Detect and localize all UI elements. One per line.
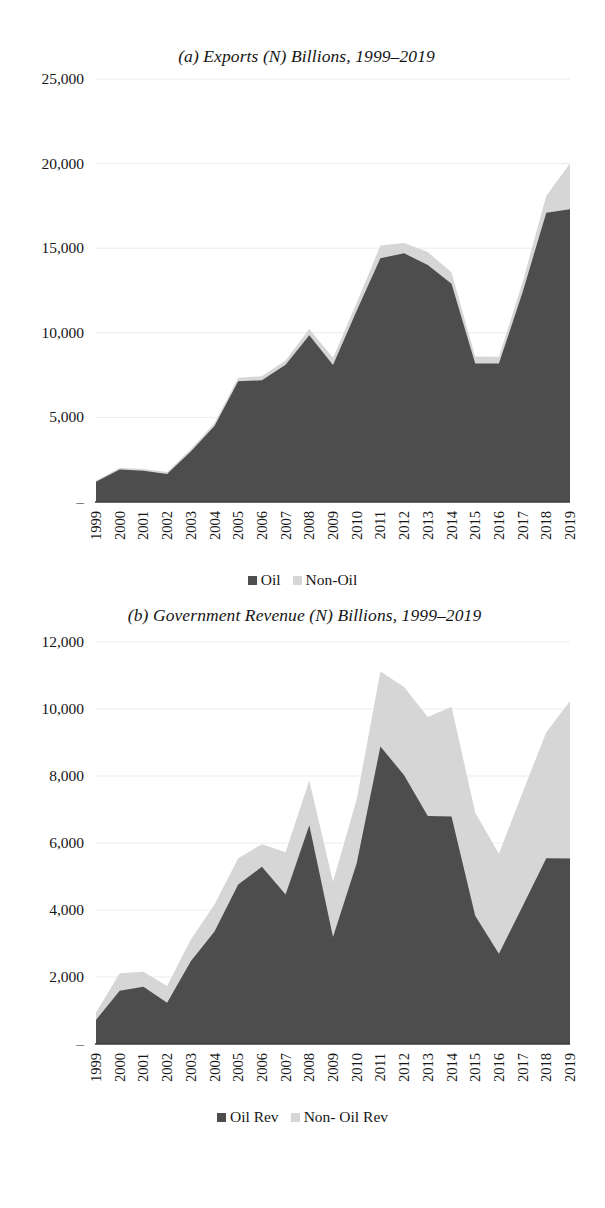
legend-label: Oil Rev: [230, 1108, 279, 1126]
x-axis-tick-label: 2000: [112, 511, 128, 540]
chart-b-title: (b) Government Revenue (N) Billions, 199…: [0, 589, 605, 626]
x-axis-tick-label: 2014: [444, 510, 460, 540]
legend-item[interactable]: Oil: [248, 571, 281, 589]
x-axis-tick-label: 1999: [88, 511, 104, 540]
legend-label: Non- Oil Rev: [304, 1108, 388, 1126]
y-axis-tick-label: –: [75, 493, 84, 510]
x-axis-tick-label: 2017: [515, 1053, 531, 1082]
chart-b-legend: Oil RevNon- Oil Rev: [0, 1108, 605, 1126]
x-axis-tick-label: 2017: [515, 511, 531, 540]
chart-a-title: (a) Exports (N) Billions, 1999–2019: [0, 0, 605, 67]
legend-swatch-icon: [248, 576, 257, 585]
x-axis-tick-label: 2006: [254, 1053, 270, 1082]
y-axis-tick-label: 10,000: [41, 700, 84, 717]
x-axis-tick-label: 2011: [372, 1053, 388, 1081]
x-axis-tick-label: 2000: [112, 1053, 128, 1082]
y-axis-tick-label: 2,000: [49, 968, 84, 985]
legend-swatch-icon: [293, 576, 302, 585]
y-axis-tick-label: 12,000: [41, 633, 84, 650]
x-axis-tick-label: 2010: [349, 511, 365, 540]
x-axis-tick-label: 2003: [183, 511, 199, 540]
x-axis-tick-label: 2013: [420, 1053, 436, 1082]
legend-item[interactable]: Non-Oil: [293, 571, 358, 589]
x-axis-tick-label: 2019: [562, 1053, 578, 1082]
x-axis-tick-label: 2008: [301, 1053, 317, 1082]
x-axis-tick-label: 2004: [207, 510, 223, 540]
x-axis-tick-label: 2016: [491, 1053, 507, 1082]
y-axis-tick-label: –: [75, 1035, 84, 1052]
x-axis-tick-label: 2009: [325, 511, 341, 540]
x-axis-tick-label: 2005: [230, 511, 246, 540]
x-axis-tick-label: 2016: [491, 511, 507, 540]
y-axis-tick-label: 10,000: [41, 324, 84, 341]
chart-b-svg: –2,0004,0006,0008,00010,00012,0001999200…: [0, 626, 605, 1104]
x-axis-tick-label: 1999: [88, 1053, 104, 1082]
x-axis-tick-label: 2012: [396, 1053, 412, 1082]
x-axis-tick-label: 2007: [278, 1053, 294, 1082]
x-axis-tick-label: 2002: [159, 511, 175, 540]
x-axis-tick-label: 2015: [467, 1053, 483, 1082]
y-axis-tick-label: 20,000: [41, 155, 84, 172]
x-axis-tick-label: 2018: [538, 511, 554, 540]
y-axis-tick-label: 15,000: [41, 239, 84, 256]
x-axis-tick-label: 2009: [325, 1053, 341, 1082]
x-axis-tick-label: 2005: [230, 1053, 246, 1082]
x-axis-tick-label: 2003: [183, 1053, 199, 1082]
x-axis-tick-label: 2007: [278, 511, 294, 540]
chart-a-legend: OilNon-Oil: [0, 571, 605, 589]
area-series-oil: [96, 209, 570, 502]
x-axis-tick-label: 2001: [135, 1053, 151, 1082]
chart-a-svg: –5,00010,00015,00020,00025,0001999200020…: [0, 67, 605, 567]
legend-swatch-icon: [217, 1113, 226, 1122]
x-axis-tick-label: 2012: [396, 511, 412, 540]
x-axis-tick-label: 2014: [444, 1052, 460, 1082]
chart-a-plot: –5,00010,00015,00020,00025,0001999200020…: [0, 67, 605, 567]
y-axis-tick-label: 6,000: [49, 834, 84, 851]
x-axis-tick-label: 2018: [538, 1053, 554, 1082]
legend-label: Non-Oil: [306, 571, 358, 589]
y-axis-tick-label: 4,000: [49, 901, 84, 918]
x-axis-tick-label: 2011: [372, 511, 388, 539]
chart-b-plot: –2,0004,0006,0008,00010,00012,0001999200…: [0, 626, 605, 1104]
x-axis-tick-label: 2008: [301, 511, 317, 540]
legend-item[interactable]: Oil Rev: [217, 1108, 279, 1126]
x-axis-tick-label: 2013: [420, 511, 436, 540]
x-axis-tick-label: 2006: [254, 511, 270, 540]
x-axis-tick-label: 2010: [349, 1053, 365, 1082]
legend-item[interactable]: Non- Oil Rev: [291, 1108, 388, 1126]
figure-container: (a) Exports (N) Billions, 1999–2019 –5,0…: [0, 0, 605, 1126]
x-axis-tick-label: 2015: [467, 511, 483, 540]
x-axis-tick-label: 2004: [207, 1052, 223, 1082]
y-axis-tick-label: 5,000: [49, 408, 84, 425]
x-axis-tick-label: 2001: [135, 511, 151, 540]
legend-swatch-icon: [291, 1113, 300, 1122]
legend-label: Oil: [261, 571, 281, 589]
x-axis-tick-label: 2002: [159, 1053, 175, 1082]
x-axis-tick-label: 2019: [562, 511, 578, 540]
y-axis-tick-label: 25,000: [41, 70, 84, 87]
y-axis-tick-label: 8,000: [49, 767, 84, 784]
